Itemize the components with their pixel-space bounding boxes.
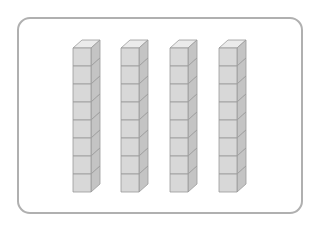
cube-front-face (219, 102, 237, 120)
cube-front-face (73, 66, 91, 84)
cube-front-face (170, 120, 188, 138)
cube-front-face (219, 138, 237, 156)
cube-front-face (219, 48, 237, 66)
cube-front-face (170, 66, 188, 84)
cube-front-face (121, 174, 139, 192)
cube-stack-3 (170, 40, 197, 192)
cube-front-face (219, 66, 237, 84)
cube-front-face (121, 102, 139, 120)
cube-front-face (170, 48, 188, 66)
cube-front-face (219, 84, 237, 102)
cube-front-face (170, 174, 188, 192)
cube-front-face (73, 156, 91, 174)
cube-front-face (73, 120, 91, 138)
cube-front-face (73, 138, 91, 156)
cube-stack-1 (73, 40, 100, 192)
cube-front-face (121, 138, 139, 156)
cube-front-face (219, 156, 237, 174)
cube-front-face (73, 174, 91, 192)
cube-front-face (73, 102, 91, 120)
cube-front-face (219, 174, 237, 192)
cube-front-face (170, 84, 188, 102)
cube-front-face (170, 156, 188, 174)
cube-front-face (170, 138, 188, 156)
cube-front-face (170, 102, 188, 120)
cube-front-face (73, 48, 91, 66)
cube-front-face (73, 84, 91, 102)
cube-front-face (121, 120, 139, 138)
cube-front-face (121, 84, 139, 102)
cube-stack-4 (219, 40, 246, 192)
cube-stack-2 (121, 40, 148, 192)
cube-front-face (121, 66, 139, 84)
cube-front-face (219, 120, 237, 138)
cube-front-face (121, 156, 139, 174)
cube-front-face (121, 48, 139, 66)
cube-stacks (0, 0, 319, 229)
